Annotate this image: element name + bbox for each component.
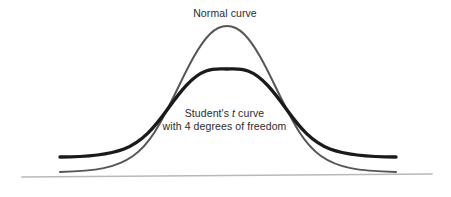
distribution-curves-canvas (0, 0, 451, 197)
t-curve-label: Student's t curve with 4 degrees of free… (0, 107, 450, 133)
t-curve-label-prefix: Student's (185, 107, 232, 119)
statistical-figure: Normal curve Student's t curve with 4 de… (0, 0, 451, 197)
t-curve-label-line-1: Student's t curve (0, 107, 450, 120)
t-curve-label-line-2: with 4 degrees of freedom (0, 120, 450, 133)
t-curve-label-suffix: curve (235, 107, 264, 119)
normal-curve-path (60, 26, 396, 172)
baseline-axis (22, 174, 432, 177)
normal-curve-label: Normal curve (0, 7, 451, 20)
